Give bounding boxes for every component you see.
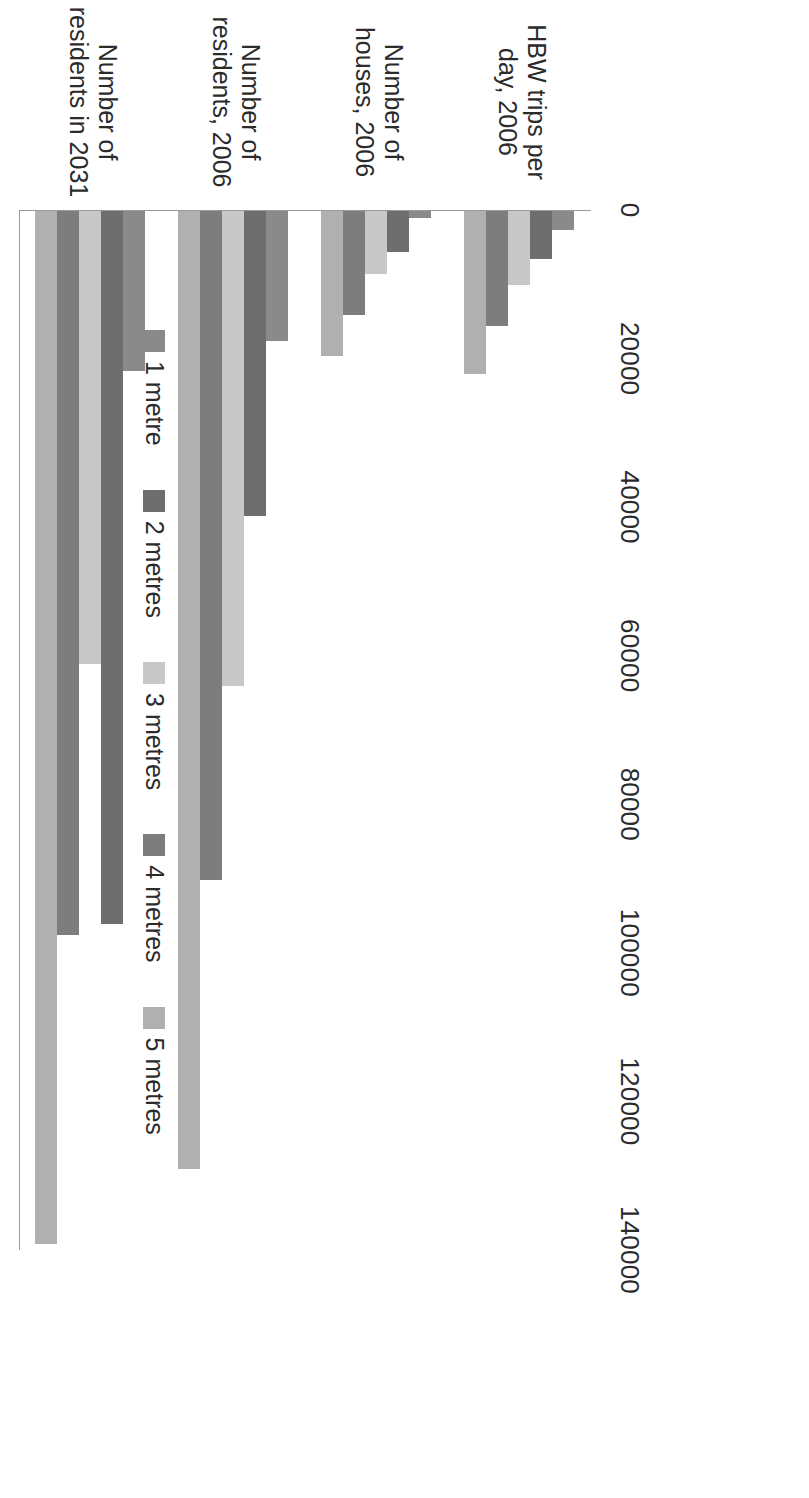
bar bbox=[245, 211, 267, 516]
value-axis-tick-label: 140000 bbox=[614, 1206, 645, 1294]
value-axis-tick-label: 20000 bbox=[614, 322, 645, 395]
legend-item: 2 metres bbox=[140, 490, 169, 618]
bar bbox=[487, 211, 509, 326]
legend-swatch-icon bbox=[144, 662, 166, 684]
chart-legend: 1 metre2 metres3 metres4 metres5 metres bbox=[140, 330, 169, 1135]
legend-item: 3 metres bbox=[140, 662, 169, 790]
category-axis-line bbox=[19, 210, 20, 1250]
category-axis-label: HBW trips per day, 2006 bbox=[494, 0, 552, 204]
legend-label: 3 metres bbox=[140, 693, 169, 790]
bar-group bbox=[36, 211, 146, 1244]
bar-chart: 020000400006000080000100000120000140000 … bbox=[0, 0, 809, 1498]
value-axis-tick-label: 0 bbox=[614, 203, 645, 218]
bar bbox=[509, 211, 531, 285]
legend-item: 4 metres bbox=[140, 834, 169, 962]
value-axis-tick-label: 60000 bbox=[614, 619, 645, 692]
value-axis-tick-label: 40000 bbox=[614, 470, 645, 543]
bar-group bbox=[179, 211, 289, 1169]
bar bbox=[388, 211, 410, 252]
category-axis: HBW trips per day, 2006Number of houses,… bbox=[19, 0, 591, 208]
value-axis-tick-label: 80000 bbox=[614, 768, 645, 841]
bar bbox=[344, 211, 366, 315]
legend-label: 2 metres bbox=[140, 521, 169, 618]
legend-swatch-icon bbox=[144, 330, 166, 352]
legend-label: 1 metre bbox=[140, 361, 169, 446]
value-axis: 020000400006000080000100000120000140000 bbox=[599, 210, 659, 1250]
legend-label: 4 metres bbox=[140, 865, 169, 962]
rotated-chart-stage: 020000400006000080000100000120000140000 … bbox=[0, 0, 809, 1498]
bar bbox=[553, 211, 575, 230]
legend-label: 5 metres bbox=[140, 1038, 169, 1135]
bar bbox=[410, 211, 432, 218]
bar bbox=[465, 211, 487, 374]
bar bbox=[201, 211, 223, 880]
legend-item: 1 metre bbox=[140, 330, 169, 446]
category-axis-label: Number of houses, 2006 bbox=[351, 0, 409, 204]
bar-group bbox=[322, 211, 432, 356]
bar bbox=[267, 211, 289, 341]
bar bbox=[223, 211, 245, 686]
bar bbox=[58, 211, 80, 935]
legend-swatch-icon bbox=[144, 1007, 166, 1029]
bar bbox=[102, 211, 124, 924]
legend-item: 5 metres bbox=[140, 1007, 169, 1135]
bar bbox=[179, 211, 201, 1169]
category-axis-label: Number of residents, 2006 bbox=[208, 0, 266, 204]
bar bbox=[322, 211, 344, 356]
value-axis-tick-label: 100000 bbox=[614, 909, 645, 997]
legend-swatch-icon bbox=[144, 834, 166, 856]
bar-group bbox=[465, 211, 575, 374]
bar bbox=[80, 211, 102, 664]
legend-swatch-icon bbox=[144, 490, 166, 512]
category-axis-label: Number of residents in 2031 bbox=[65, 0, 123, 204]
bar bbox=[531, 211, 553, 259]
plot-area bbox=[19, 210, 591, 1250]
bar bbox=[366, 211, 388, 274]
bar bbox=[36, 211, 58, 1244]
value-axis-tick-label: 120000 bbox=[614, 1057, 645, 1145]
